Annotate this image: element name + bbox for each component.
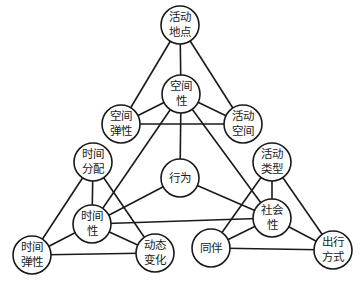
node-activity-type [253,143,291,181]
node-spatial-flexibility [102,105,140,143]
node-time-allocation [74,143,112,181]
node-spatiality [162,75,200,113]
node-activity-location [161,6,199,44]
behavior-concept-diagram: 活动 地点空间 性空间 弹性活动 空间时间 分配行为活动 类型时间 性社会 性时… [0,0,363,285]
node-activity-space [224,105,262,143]
edge-temporality-sociality [92,218,272,224]
node-behavior [161,159,199,197]
node-sociality [253,199,291,237]
node-travel-mode [314,231,352,269]
node-dynamic-change [136,234,174,272]
diagram-canvas [0,0,363,285]
node-companion [192,229,230,267]
node-time-flexibility [13,236,51,274]
node-temporality [73,205,111,243]
